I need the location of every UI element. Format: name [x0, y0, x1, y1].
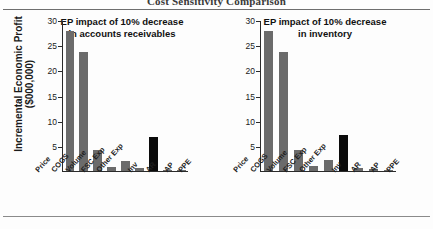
bar-slot	[160, 21, 174, 171]
y-tick-mark	[256, 21, 260, 22]
category-slot: AR	[141, 167, 159, 213]
y-tick-label: 15	[246, 92, 255, 102]
category-slot: Other Exp	[106, 167, 124, 213]
y-tick-mark	[256, 97, 260, 98]
bar-slot	[146, 21, 160, 171]
figure-page: Cost Sensitivity Comparison Incremental …	[0, 0, 433, 229]
y-tick-mark	[58, 46, 62, 47]
category-slot: Price	[35, 167, 53, 213]
y-tick-mark	[256, 71, 260, 72]
category-slot: COGS	[252, 167, 271, 213]
y-tick-label: 10	[48, 117, 57, 127]
bar-slot	[381, 21, 396, 171]
y-tick-label: 5	[52, 142, 57, 152]
y-tick-mark	[58, 122, 62, 123]
category-slot: FSC Exp	[88, 167, 106, 213]
category-slot: AR	[346, 167, 365, 213]
y-tick-label: 15	[48, 92, 57, 102]
y-tick-mark	[256, 147, 260, 148]
y-tick-label: 5	[250, 142, 255, 152]
category-slot: AP	[159, 167, 177, 213]
y-tick-mark	[58, 97, 62, 98]
category-slot: AP	[364, 167, 383, 213]
x-axis-categories: PriceCOGSVolumeFSC ExpOther ExpInvARAPPP…	[233, 167, 402, 213]
category-slot: PPE	[383, 167, 402, 213]
y-tick-mark	[58, 71, 62, 72]
x-tick-label: Price	[232, 154, 251, 174]
y-tick-mark	[58, 147, 62, 148]
bottom-divider	[3, 216, 430, 217]
category-slot: PPE	[176, 167, 194, 213]
y-tick-mark	[256, 46, 260, 47]
bar-price	[264, 31, 274, 172]
bar-slot	[63, 21, 77, 171]
y-axis-label-line1: Incremental Economic Profit	[13, 16, 24, 152]
bar-slot	[77, 21, 91, 171]
chart-panel-inventory: EP impact of 10% decrease in inventory 5…	[232, 14, 402, 214]
category-slot: FSC Exp	[289, 167, 308, 213]
y-tick-label: 20	[246, 66, 255, 76]
x-tick-label: Price	[33, 154, 52, 174]
bar-slot	[261, 21, 276, 171]
chart-panel-accounts-receivables: EP impact of 10% decrease in accounts re…	[34, 14, 194, 214]
bar-slot	[336, 21, 351, 171]
x-axis-categories: PriceCOGSVolumeFSC ExpOther ExpInvARAPPP…	[35, 167, 194, 213]
bar-slot	[366, 21, 381, 171]
bar-slot	[132, 21, 146, 171]
category-slot: Inv	[123, 167, 141, 213]
category-slot: Inv	[327, 167, 346, 213]
category-slot: Other Exp	[308, 167, 327, 213]
category-slot: Volume	[271, 167, 290, 213]
bar-slot	[174, 21, 188, 171]
category-slot: COGS	[53, 167, 71, 213]
y-tick-label: 25	[48, 41, 57, 51]
category-slot: Price	[233, 167, 252, 213]
y-tick-mark	[58, 21, 62, 22]
y-tick-label: 10	[246, 117, 255, 127]
bar-slot	[351, 21, 366, 171]
y-tick-label: 30	[246, 16, 255, 26]
bar-price	[66, 31, 75, 172]
top-divider	[3, 9, 430, 10]
y-tick-mark	[256, 122, 260, 123]
y-tick-label: 25	[246, 41, 255, 51]
y-axis-label: Incremental Economic Profit ($000,000)	[13, 4, 35, 164]
y-tick-label: 20	[48, 66, 57, 76]
y-tick-label: 30	[48, 16, 57, 26]
document-title: Cost Sensitivity Comparison	[0, 0, 433, 7]
